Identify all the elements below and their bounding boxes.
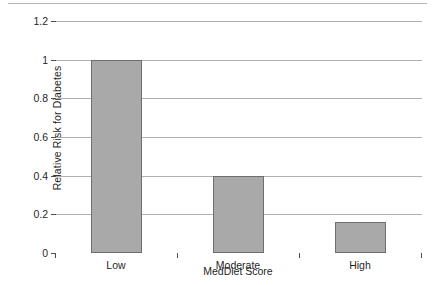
y-tick-label-0.4: 0.4 xyxy=(33,170,48,182)
page-top-rule xyxy=(8,3,427,4)
gridline-1.2 xyxy=(56,21,422,22)
x-tick-start xyxy=(55,253,56,258)
bar-high xyxy=(335,222,386,253)
x-axis-title: MedDiet Score xyxy=(55,265,421,277)
plot-area: 1.2 1 0.8 0.6 0.4 0.2 0 Low Moderate xyxy=(55,21,421,253)
bar-chart-figure: Relative Risk for Diabetes 1.2 1 0.8 0.6… xyxy=(0,0,435,285)
y-tick-label-wrap-0.8: 0.8 xyxy=(55,98,56,99)
y-tick-label-0.6: 0.6 xyxy=(33,131,48,143)
y-tick-label-wrap-0.4: 0.4 xyxy=(55,176,56,177)
bar-low xyxy=(91,60,142,253)
y-tick-label-1: 1 xyxy=(42,54,48,66)
y-tick-label-0.8: 0.8 xyxy=(33,92,48,104)
y-tick-label-wrap-1.2: 1.2 xyxy=(55,21,56,22)
y-tick-label-wrap-0.2: 0.2 xyxy=(55,214,56,215)
x-tick-end xyxy=(421,253,422,258)
y-tick-label-wrap-1.0: 1 xyxy=(55,60,56,61)
y-tick-label-wrap-0.6: 0.6 xyxy=(55,137,56,138)
bar-moderate xyxy=(213,176,264,253)
y-tick-label-0.2: 0.2 xyxy=(33,208,48,220)
y-tick-label-0: 0 xyxy=(42,247,48,259)
y-tick-label-1.2: 1.2 xyxy=(33,15,48,27)
x-tick-boundary-1 xyxy=(177,253,178,258)
x-tick-boundary-2 xyxy=(299,253,300,258)
